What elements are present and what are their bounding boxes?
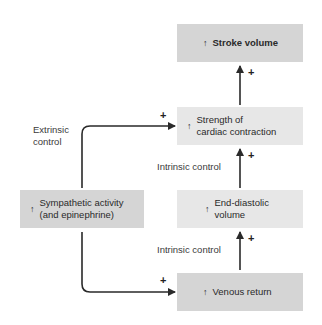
intrinsic-control-label-upper: Intrinsic control [157, 161, 221, 173]
increase-arrow-icon: ↑ [203, 37, 208, 49]
plus-sign-venous-to-edv: + [248, 233, 254, 244]
increase-arrow-icon: ↑ [30, 203, 35, 215]
plus-sign-strength-to-sv: + [248, 67, 254, 78]
strength-label: Strength of cardiac contraction [197, 114, 277, 138]
plus-sign-symp-to-strength: + [160, 110, 166, 121]
plus-sign-symp-to-venous: + [160, 275, 166, 286]
edv-label: End-diastolic volume [215, 197, 269, 221]
venous-return-label: Venous return [213, 286, 272, 298]
arrow-sympathetic-to-strength [82, 126, 175, 188]
sympathetic-activity-box: ↑ Sympathetic activity (and epinephrine) [20, 190, 144, 228]
intrinsic-control-label-lower: Intrinsic control [157, 244, 221, 256]
strength-of-contraction-box: ↑ Strength of cardiac contraction [177, 107, 303, 145]
stroke-volume-box: ↑ Stroke volume [177, 24, 303, 62]
increase-arrow-icon: ↑ [187, 120, 192, 132]
venous-return-box: ↑ Venous return [177, 273, 303, 311]
plus-sign-edv-to-strength: + [248, 150, 254, 161]
end-diastolic-volume-box: ↑ End-diastolic volume [177, 190, 303, 228]
stroke-volume-label: Stroke volume [213, 37, 278, 49]
increase-arrow-icon: ↑ [203, 286, 208, 298]
extrinsic-control-label: Extrinsic control [33, 124, 69, 148]
increase-arrow-icon: ↑ [205, 203, 210, 215]
sympathetic-label: Sympathetic activity (and epinephrine) [40, 197, 124, 221]
